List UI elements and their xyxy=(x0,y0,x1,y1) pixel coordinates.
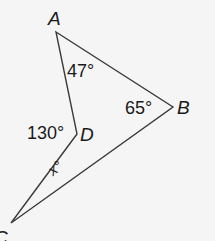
quadrilateral-figure xyxy=(0,0,215,241)
diagram-canvas: A B C D 47° 65° 130° x° xyxy=(0,0,215,241)
vertex-label-b: B xyxy=(177,98,190,117)
vertex-label-a: A xyxy=(48,9,61,28)
angle-label-d: 130° xyxy=(27,124,64,142)
angle-label-a: 47° xyxy=(67,62,94,80)
vertex-label-c: C xyxy=(0,228,8,241)
angle-label-b: 65° xyxy=(125,99,152,117)
vertex-label-d: D xyxy=(80,125,94,144)
